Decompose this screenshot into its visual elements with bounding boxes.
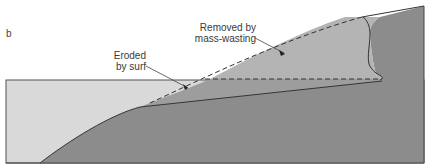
removed-label-line1: Removed by [190, 22, 256, 33]
removed-label-line2: mass-wasting [190, 33, 256, 44]
panel-letter: b [6, 28, 12, 39]
eroded-label-line2: by surf [112, 61, 146, 72]
removed-by-mass-wasting-label: Removed by mass-wasting [190, 22, 256, 44]
eroded-by-surf-label: Eroded by surf [112, 50, 146, 72]
eroded-label-line1: Eroded [112, 50, 146, 61]
